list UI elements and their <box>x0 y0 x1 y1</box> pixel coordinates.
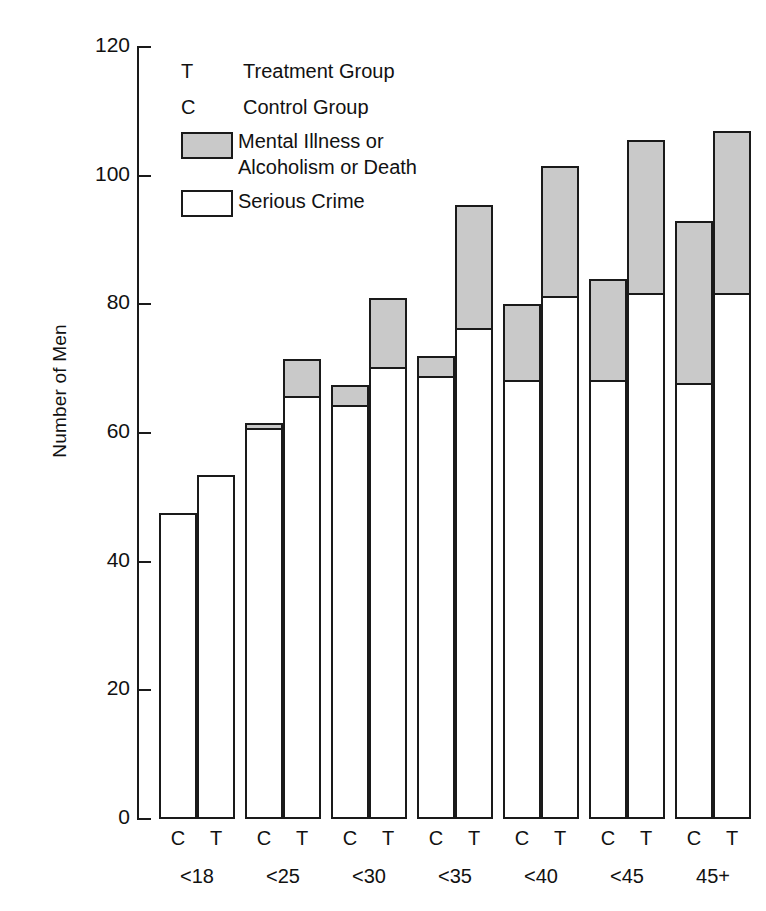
y-axis-tick-label: 0 <box>60 805 130 829</box>
x-axis-bar-label-T: T <box>197 827 235 850</box>
y-axis-tick-label: 100 <box>60 162 130 186</box>
legend-row: CControl Group <box>176 92 506 122</box>
bar-group <box>589 47 665 819</box>
bar-segment-mental-illness <box>627 140 665 294</box>
x-axis-bar-label-T: T <box>369 827 407 850</box>
legend-row: Mental Illness or Alcoholism or Death <box>176 128 506 180</box>
bar-lt35-C[interactable] <box>417 356 455 819</box>
x-axis-group-label: 45+ <box>658 865 766 888</box>
legend-swatch-wrap <box>176 128 238 159</box>
chart-legend: TTreatment GroupCControl GroupMental Ill… <box>176 56 506 223</box>
x-axis-bar-label-C: C <box>675 827 713 850</box>
x-axis-bar-label-T: T <box>713 827 751 850</box>
bar-segment-mental-illness <box>245 423 283 429</box>
x-axis-bar-label-T: T <box>455 827 493 850</box>
bar-segment-mental-illness <box>503 304 541 381</box>
bar-lt18-C[interactable] <box>159 513 197 819</box>
x-axis-bar-label-T: T <box>283 827 321 850</box>
y-axis-tick-label: 40 <box>60 548 130 572</box>
legend-row: TTreatment Group <box>176 56 506 86</box>
legend-label: Serious Crime <box>238 186 365 216</box>
bar-segment-mental-illness <box>589 279 627 382</box>
bar-lt25-C[interactable] <box>245 423 283 819</box>
bar-lt40-T[interactable] <box>541 166 579 819</box>
bar-lt45-C[interactable] <box>589 279 627 819</box>
bar-lt30-T[interactable] <box>369 298 407 819</box>
x-axis-bar-label-T: T <box>541 827 579 850</box>
legend-label: Mental Illness or Alcoholism or Death <box>238 128 417 180</box>
bar-segment-mental-illness <box>455 205 493 330</box>
bar-segment-mental-illness <box>541 166 579 298</box>
bar-segment-mental-illness <box>369 298 407 369</box>
bar-group <box>503 47 579 819</box>
x-axis-bar-label-T: T <box>627 827 665 850</box>
bar-lt35-T[interactable] <box>455 205 493 819</box>
bar-segment-mental-illness <box>283 359 321 398</box>
bar-lt45-T[interactable] <box>627 140 665 819</box>
legend-label: Control Group <box>243 92 369 122</box>
bar-segment-mental-illness <box>331 385 369 408</box>
bar-lt18-T[interactable] <box>197 475 235 819</box>
x-axis-bar-label-C: C <box>245 827 283 850</box>
bar-segment-mental-illness <box>417 356 455 379</box>
legend-key-T: T <box>176 56 243 86</box>
legend-key-C: C <box>176 92 243 122</box>
x-axis-bar-label-C: C <box>331 827 369 850</box>
bar-segment-mental-illness <box>675 221 713 385</box>
bar-segment-mental-illness <box>713 131 751 295</box>
bar-chart-figure: Number of Men 120100806040200 CT<18CT<25… <box>0 0 766 911</box>
bar-group <box>675 47 751 819</box>
x-axis-bar-label-C: C <box>417 827 455 850</box>
y-axis-tick-label: 20 <box>60 676 130 700</box>
y-axis-tick-label: 120 <box>60 33 130 57</box>
y-axis-tick-label: 60 <box>60 419 130 443</box>
bar-45plus-T[interactable] <box>713 131 751 819</box>
x-axis-bar-label-C: C <box>159 827 197 850</box>
legend-swatch-gray <box>181 132 233 159</box>
bar-lt30-C[interactable] <box>331 385 369 819</box>
y-axis-tick-label: 80 <box>60 290 130 314</box>
bar-lt25-T[interactable] <box>283 359 321 819</box>
legend-row: Serious Crime <box>176 186 506 217</box>
y-axis-title: Number of Men <box>49 291 71 491</box>
bar-lt40-C[interactable] <box>503 304 541 819</box>
legend-swatch-wrap <box>176 186 238 217</box>
bar-45plus-C[interactable] <box>675 221 713 819</box>
x-axis-bar-label-C: C <box>589 827 627 850</box>
legend-swatch-white <box>181 190 233 217</box>
legend-label: Treatment Group <box>243 56 395 86</box>
x-axis-bar-label-C: C <box>503 827 541 850</box>
